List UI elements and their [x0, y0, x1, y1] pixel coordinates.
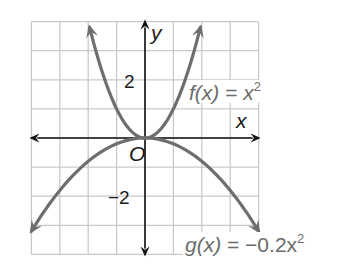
f-function-name: f(x) [189, 81, 219, 104]
origin-label: O [129, 143, 145, 164]
x-axis-label: x [236, 110, 247, 131]
g-exponent: 2 [297, 231, 304, 246]
f-equation-label: f(x) = x2 [187, 80, 263, 103]
f-equals: = [219, 81, 243, 104]
g-function-name: g(x) [185, 233, 221, 256]
g-equation-label: g(x) = −0.2x2 [183, 232, 306, 255]
y-tick-label-2: 2 [124, 72, 135, 91]
g-rhs: −0.2x [245, 233, 297, 256]
y-tick-label-neg2: −2 [108, 188, 130, 207]
f-exponent: 2 [254, 79, 261, 94]
y-axis-label: y [151, 22, 162, 43]
f-rhs: x [243, 81, 254, 104]
g-equals: = [221, 233, 245, 256]
